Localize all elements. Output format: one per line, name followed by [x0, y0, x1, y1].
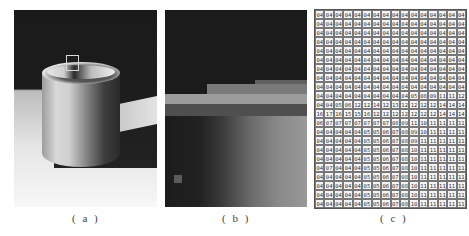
grid-cell: 04 — [343, 190, 352, 199]
grid-cell: 04 — [457, 73, 466, 82]
grid-cell: 04 — [362, 73, 371, 82]
grid-cell: 14 — [457, 100, 466, 109]
grid-cell: 11 — [428, 136, 437, 145]
grid-cell: 04 — [428, 82, 437, 91]
grid-cell: 04 — [419, 46, 428, 55]
grid-cell: 11 — [457, 127, 466, 136]
grid-cell: 11 — [419, 154, 428, 163]
grid-cell: 10 — [419, 127, 428, 136]
grid-cell: 04 — [334, 163, 343, 172]
grid-cell: 04 — [372, 19, 381, 28]
grid-cell: 11 — [447, 118, 456, 127]
grid-cell: 04 — [315, 82, 324, 91]
grid-cell: 16 — [362, 109, 371, 118]
grid-cell: 04 — [419, 64, 428, 73]
grid-cell: 06 — [381, 181, 390, 190]
grid-cell: 04 — [400, 55, 409, 64]
grid-cell: 04 — [334, 172, 343, 181]
grid-cell: 04 — [372, 10, 381, 19]
grid-cell: 07 — [324, 118, 333, 127]
grid-cell: 04 — [438, 73, 447, 82]
grid-cell: 04 — [324, 55, 333, 64]
grid-cell: 04 — [409, 55, 418, 64]
grid-cell: 04 — [362, 37, 371, 46]
grid-cell: 10 — [409, 190, 418, 199]
grid-cell: 11 — [447, 127, 456, 136]
grid-cell: 04 — [391, 10, 400, 19]
grid-cell: 04 — [428, 28, 437, 37]
grid-cell: 11 — [419, 181, 428, 190]
grid-cell: 11 — [447, 190, 456, 199]
grid-cell: 04 — [362, 10, 371, 19]
grid-cell: 11 — [438, 163, 447, 172]
cylinder-inner — [47, 65, 115, 79]
grid-cell: 04 — [343, 91, 352, 100]
grid-cell: 04 — [438, 64, 447, 73]
grid-cell: 11 — [447, 154, 456, 163]
grid-cell: 12 — [457, 91, 466, 100]
grid-cell: 04 — [343, 10, 352, 19]
grid-cell: 04 — [315, 163, 324, 172]
grid-cell: 12 — [381, 109, 390, 118]
grid-cell: 04 — [419, 37, 428, 46]
grid-cell: 04 — [343, 37, 352, 46]
grid-cell: 05 — [372, 154, 381, 163]
grid-cell: 07 — [391, 127, 400, 136]
grid-cell: 04 — [447, 64, 456, 73]
grid-cell: 07 — [362, 118, 371, 127]
grid-cell: 04 — [334, 55, 343, 64]
grid-cell: 04 — [324, 73, 333, 82]
grid-cell: 12 — [353, 100, 362, 109]
grid-cell: 12 — [419, 100, 428, 109]
grid-cell: 11 — [438, 118, 447, 127]
grid-cell: 12 — [400, 100, 409, 109]
grid-cell: 04 — [334, 136, 343, 145]
grid-cell: 04 — [372, 28, 381, 37]
grid-cell: 04 — [324, 154, 333, 163]
grid-cells: 0404040404040404040404040404040404040404… — [315, 10, 466, 208]
grid-cell: 04 — [400, 10, 409, 19]
grid-cell: 05 — [372, 172, 381, 181]
grid-cell: 04 — [400, 28, 409, 37]
grid-cell: 04 — [334, 10, 343, 19]
grid-cell: 04 — [409, 19, 418, 28]
grid-cell: 04 — [428, 73, 437, 82]
grid-cell: 07 — [372, 118, 381, 127]
grid-cell: 04 — [353, 172, 362, 181]
grid-cell: 04 — [391, 28, 400, 37]
grid-cell: 04 — [457, 46, 466, 55]
grid-cell: 11 — [438, 172, 447, 181]
grid-cell: 04 — [391, 55, 400, 64]
grid-cell: 05 — [362, 199, 371, 208]
grid-cell: 04 — [353, 82, 362, 91]
grid-cell: 04 — [447, 37, 456, 46]
grid-cell: 04 — [324, 136, 333, 145]
grid-cell: 04 — [372, 91, 381, 100]
grid-cell: 11 — [457, 136, 466, 145]
grid-cell: 05 — [362, 136, 371, 145]
grid-cell: 04 — [447, 10, 456, 19]
grid-cell: 04 — [372, 46, 381, 55]
grid-cell: 06 — [381, 199, 390, 208]
grid-cell: 07 — [334, 118, 343, 127]
grid-cell: 04 — [334, 199, 343, 208]
grid-cell: 06 — [381, 163, 390, 172]
grid-cell: 04 — [419, 73, 428, 82]
grid-cell: 04 — [438, 28, 447, 37]
grid-cell: 04 — [362, 55, 371, 64]
gradient-region — [165, 116, 307, 207]
grid-cell: 04 — [381, 91, 390, 100]
grid-cell: 04 — [343, 172, 352, 181]
grid-cell: 11 — [438, 91, 447, 100]
grid-cell: 04 — [438, 55, 447, 64]
grid-cell: 04 — [334, 127, 343, 136]
grid-cell: 04 — [315, 55, 324, 64]
grid-cell: 14 — [447, 100, 456, 109]
grid-cell: 04 — [324, 100, 333, 109]
grid-cell: 07 — [391, 181, 400, 190]
grid-cell: 04 — [362, 91, 371, 100]
grid-cell: 04 — [334, 46, 343, 55]
grid-cell: 04 — [315, 28, 324, 37]
grid-cell: 04 — [353, 199, 362, 208]
grid-cell: 11 — [457, 118, 466, 127]
